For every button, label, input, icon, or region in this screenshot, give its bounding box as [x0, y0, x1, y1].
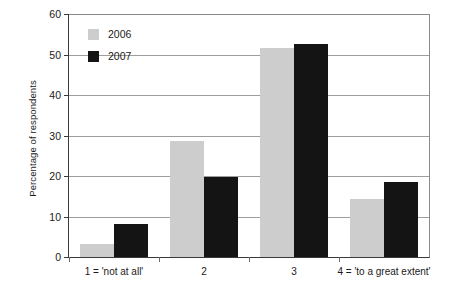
x-tick-mark	[159, 257, 160, 262]
legend-item: 2007	[88, 45, 131, 67]
gridline	[69, 14, 429, 15]
legend-label: 2007	[108, 50, 131, 62]
x-tick-mark	[69, 257, 70, 262]
y-tick-mark	[64, 217, 69, 218]
y-tick-mark	[64, 176, 69, 177]
bar	[204, 177, 238, 257]
gridline	[69, 176, 429, 177]
y-tick-label: 50	[49, 49, 61, 61]
x-tick-mark	[339, 257, 340, 262]
y-tick-mark	[64, 55, 69, 56]
y-tick-label: 0	[55, 251, 61, 263]
legend-swatch-icon	[88, 29, 99, 40]
bar-chart: Percentage of respondents 01020304050601…	[0, 0, 449, 292]
bar	[170, 141, 204, 257]
bar	[384, 182, 418, 257]
chart-legend: 2006 2007	[88, 23, 131, 67]
gridline	[69, 136, 429, 137]
y-tick-label: 20	[49, 170, 61, 182]
x-tick-label: 2	[201, 266, 207, 277]
y-tick-label: 30	[49, 130, 61, 142]
x-tick-label: 3	[291, 266, 297, 277]
bar	[294, 44, 328, 257]
y-tick-label: 40	[49, 89, 61, 101]
bar	[80, 244, 114, 257]
y-tick-mark	[64, 14, 69, 15]
legend-item: 2006	[88, 23, 131, 45]
y-tick-label: 60	[49, 8, 61, 20]
legend-swatch-icon	[88, 51, 99, 62]
gridline	[69, 95, 429, 96]
bar	[114, 224, 148, 257]
legend-label: 2006	[108, 28, 131, 40]
y-tick-label: 10	[49, 211, 61, 223]
x-tick-label: 1 = 'not at all'	[85, 266, 144, 277]
x-tick-label: 4 = 'to a great extent'	[337, 266, 430, 277]
y-tick-mark	[64, 136, 69, 137]
bar	[260, 48, 294, 257]
x-tick-mark	[249, 257, 250, 262]
y-tick-mark	[64, 95, 69, 96]
y-axis-title: Percentage of respondents	[27, 14, 38, 264]
bar	[350, 199, 384, 257]
